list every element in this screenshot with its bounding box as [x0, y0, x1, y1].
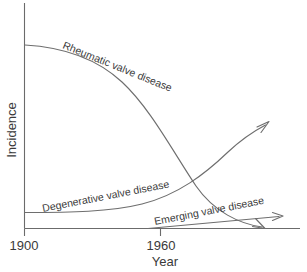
series-arrow-rheumatic: [253, 219, 266, 229]
x-tick-label-1900: 1900: [10, 238, 39, 253]
valve-disease-incidence-figure: Rheumatic valve disease Degenerative val…: [0, 0, 307, 272]
chart-canvas: Rheumatic valve disease Degenerative val…: [0, 0, 307, 272]
series-label-emerging: Emerging valve disease: [153, 194, 265, 227]
series-label-rheumatic: Rheumatic valve disease: [61, 39, 174, 94]
y-axis-title: Incidence: [4, 102, 19, 158]
x-tick-label-1960: 1960: [147, 238, 176, 253]
x-axis-title: Year: [152, 254, 179, 269]
series-label-degenerative: Degenerative valve disease: [41, 178, 170, 214]
